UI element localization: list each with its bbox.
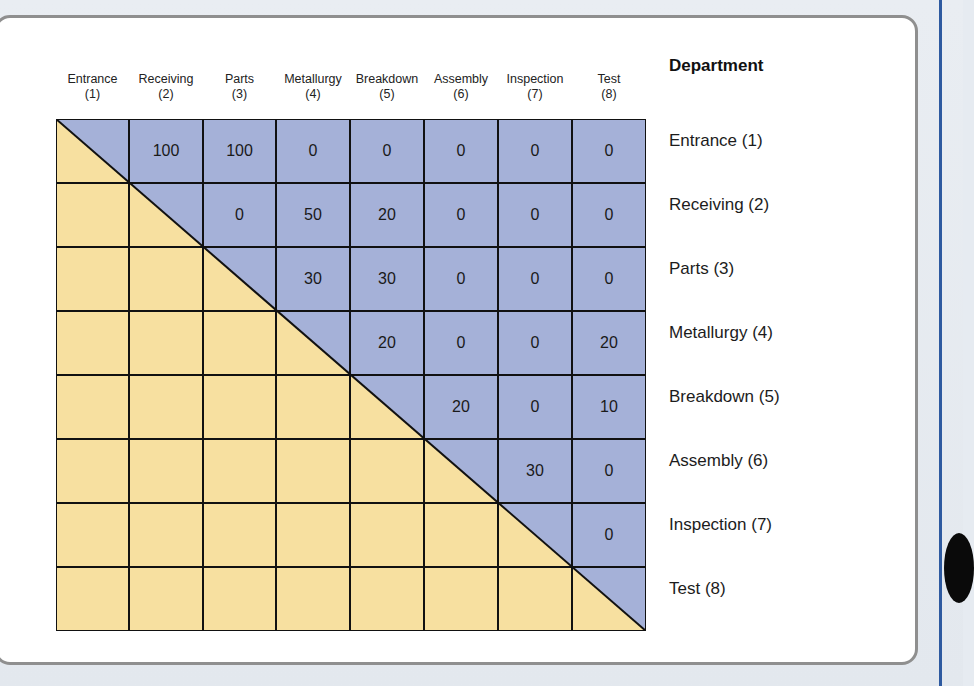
column-header-number: (4) (276, 87, 350, 102)
matrix-cell: 0 (424, 119, 498, 183)
matrix-cell: 0 (498, 183, 572, 247)
column-header-number: (5) (350, 87, 424, 102)
column-header-name: Assembly (424, 72, 498, 87)
column-header-number: (1) (56, 87, 130, 102)
row-label: Inspection (7) (669, 515, 772, 535)
matrix-cell: 30 (498, 439, 572, 503)
matrix-cell: 0 (498, 311, 572, 375)
matrix-cell: 0 (572, 119, 646, 183)
matrix-cell: 20 (350, 311, 424, 375)
flow-matrix-grid: 1001000000005020000303000020002020010300… (56, 119, 646, 631)
column-header: Receiving(2) (129, 72, 203, 102)
matrix-cell: 0 (424, 247, 498, 311)
column-header-number: (2) (129, 87, 203, 102)
matrix-cell: 20 (572, 311, 646, 375)
column-header: Parts(3) (203, 72, 277, 102)
column-header: Entrance(1) (56, 72, 130, 102)
column-header: Breakdown(5) (350, 72, 424, 102)
column-header-name: Metallurgy (276, 72, 350, 87)
column-header-name: Receiving (129, 72, 203, 87)
matrix-cell: 0 (498, 247, 572, 311)
row-label: Receiving (2) (669, 195, 769, 215)
matrix-cell: 0 (572, 503, 646, 567)
column-header-number: (3) (203, 87, 277, 102)
column-header-number: (6) (424, 87, 498, 102)
matrix-cell: 0 (424, 183, 498, 247)
row-label: Parts (3) (669, 259, 734, 279)
column-header: Inspection(7) (498, 72, 572, 102)
matrix-cell: 0 (276, 119, 350, 183)
column-header-name: Test (572, 72, 646, 87)
column-header-name: Entrance (56, 72, 130, 87)
row-label: Assembly (6) (669, 451, 768, 471)
row-label: Entrance (1) (669, 131, 763, 151)
row-header-title: Department (669, 56, 763, 76)
matrix-cell: 0 (572, 247, 646, 311)
matrix-cell: 20 (350, 183, 424, 247)
column-header-name: Parts (203, 72, 277, 87)
matrix-cell: 50 (276, 183, 350, 247)
row-label: Metallurgy (4) (669, 323, 773, 343)
page-tab-marker (944, 533, 974, 603)
matrix-cell: 100 (203, 119, 276, 183)
matrix-cell: 10 (572, 375, 646, 439)
matrix-cell: 0 (498, 375, 572, 439)
page-edge-rule (939, 0, 942, 686)
row-label: Breakdown (5) (669, 387, 780, 407)
matrix-cell: 0 (572, 439, 646, 503)
matrix-cell: 0 (424, 311, 498, 375)
column-header-name: Breakdown (350, 72, 424, 87)
column-header-name: Inspection (498, 72, 572, 87)
matrix-cell: 20 (424, 375, 498, 439)
matrix-cell: 30 (350, 247, 424, 311)
column-header-number: (7) (498, 87, 572, 102)
matrix-cell: 0 (498, 119, 572, 183)
column-header: Test(8) (572, 72, 646, 102)
column-header: Metallurgy(4) (276, 72, 350, 102)
matrix-cell: 0 (572, 183, 646, 247)
column-header: Assembly(6) (424, 72, 498, 102)
matrix-cell: 30 (276, 247, 350, 311)
row-label: Test (8) (669, 579, 726, 599)
matrix-cell: 100 (129, 119, 203, 183)
column-header-number: (8) (572, 87, 646, 102)
matrix-cell: 0 (350, 119, 424, 183)
matrix-cell: 0 (203, 183, 276, 247)
